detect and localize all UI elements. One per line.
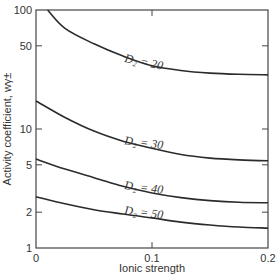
curve-d230	[36, 101, 268, 161]
y-tick-label: 100	[14, 4, 32, 16]
y-tick-label: 10	[20, 123, 32, 135]
x-tick-label: 0	[33, 252, 39, 264]
curve-label: D₂ = 30	[123, 133, 164, 152]
curve-label: D₂ = 40	[123, 178, 164, 197]
y-tick-label: 50	[20, 40, 32, 52]
x-axis-title: Ionic strength	[119, 262, 185, 274]
activity-coefficient-chart: 125105010000.10.2 D₂ = 20D₂ = 30D₂ = 40D…	[0, 0, 277, 278]
y-tick-label: 1	[26, 242, 32, 254]
y-tick-label: 2	[26, 206, 32, 218]
curve-labels: D₂ = 20D₂ = 30D₂ = 40D₂ = 50	[122, 51, 164, 222]
curve-label: D₂ = 20	[122, 51, 164, 73]
axes: 125105010000.10.2	[14, 4, 276, 264]
y-tick-label: 5	[26, 159, 32, 171]
y-axis-title: Activity coefficient, wγ±	[1, 73, 13, 186]
x-tick-label: 0.2	[260, 252, 275, 264]
curve-label: D₂ = 50	[123, 203, 164, 222]
